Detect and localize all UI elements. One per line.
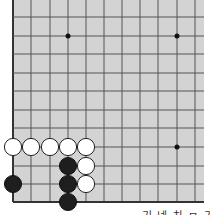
star-point-icon bbox=[66, 34, 71, 39]
diagram-caption: 기 넷 차 ㅁ 기 두 서 새 bbox=[142, 207, 210, 215]
black-stone-icon bbox=[59, 193, 76, 210]
white-stone-icon bbox=[77, 138, 94, 155]
white-stone-icon bbox=[59, 138, 76, 155]
star-point-icon bbox=[175, 145, 180, 150]
white-stone-icon bbox=[41, 138, 58, 155]
go-board-diagram bbox=[0, 0, 210, 215]
black-stone-icon bbox=[59, 157, 76, 174]
white-stone-icon bbox=[77, 157, 94, 174]
white-stone-icon bbox=[22, 138, 39, 155]
black-stone-icon bbox=[4, 175, 21, 192]
white-stone-icon bbox=[77, 175, 94, 192]
star-point-icon bbox=[175, 34, 180, 39]
board-surface bbox=[13, 0, 204, 202]
white-stone-icon bbox=[4, 138, 21, 155]
black-stone-icon bbox=[59, 175, 76, 192]
